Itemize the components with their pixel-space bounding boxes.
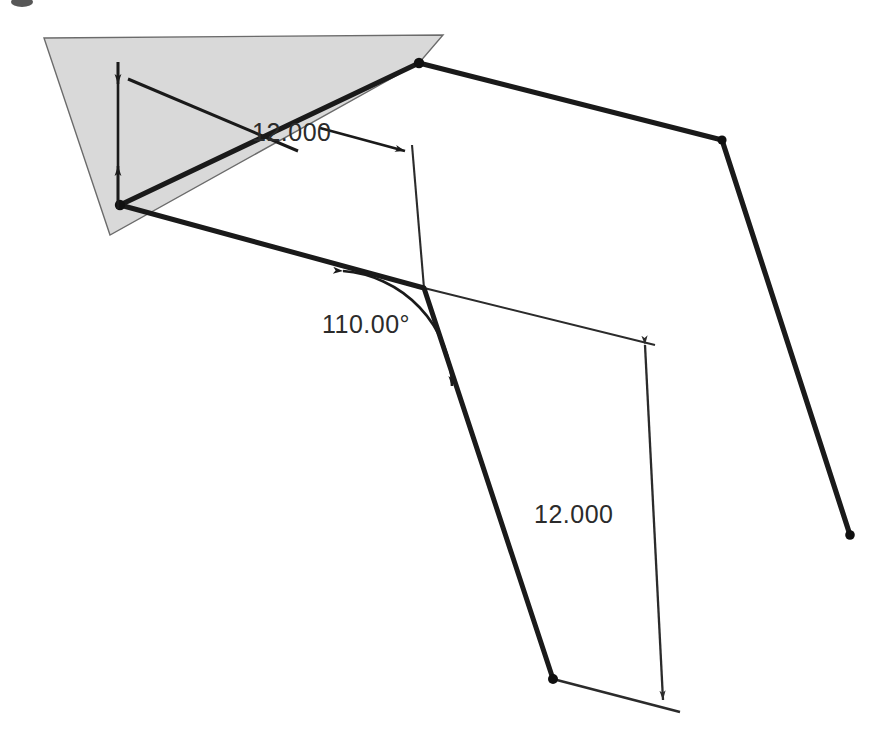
vertex-point (845, 530, 855, 540)
vertex-point (548, 674, 558, 684)
vertex-point (414, 58, 424, 68)
upper-dimension-label: 12.000 (252, 118, 331, 146)
vertex-point (115, 200, 125, 210)
vertex-point (717, 135, 726, 144)
cad-drawing-canvas: 12.000 110.00° 12.000 (0, 0, 896, 752)
lower-dimension-label: 12.000 (534, 500, 613, 528)
cad-drawing-svg: 12.000 110.00° 12.000 (0, 0, 896, 752)
angle-dimension-label: 110.00° (322, 310, 410, 338)
